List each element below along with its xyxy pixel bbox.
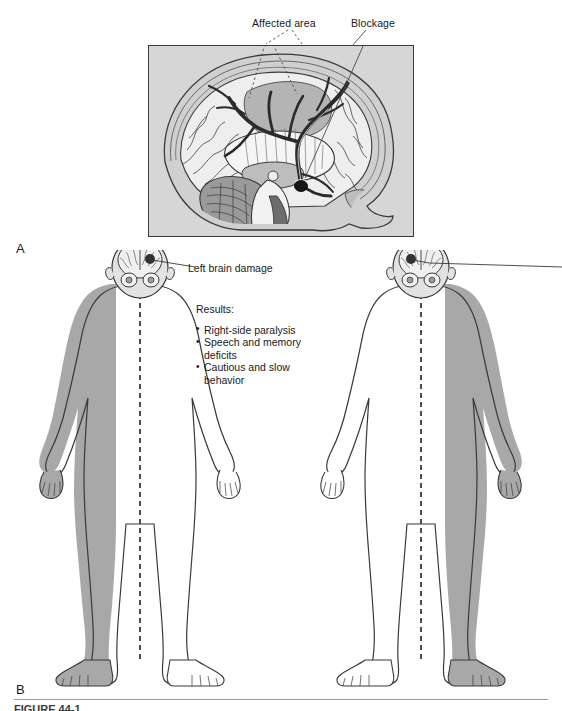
body-diagram-right-brain-damage <box>281 250 562 690</box>
callout-label-blockage: Blockage <box>351 17 395 29</box>
brain-illustration-panel <box>148 45 414 237</box>
caption-divider <box>14 699 548 700</box>
lesion-marker <box>406 254 416 264</box>
lesion-marker <box>145 254 155 264</box>
figure-caption: FIGURE 44-1 <box>14 703 548 711</box>
bullet-icon: • <box>196 323 200 336</box>
figure-left-brain-damage: Left brain damage Results: •Right-side p… <box>0 250 281 690</box>
figure-right-brain-damage: Right brain damage Results: •Left-side p… <box>281 250 562 690</box>
bullet-icon: • <box>196 336 200 349</box>
panel-b-letter: B <box>16 682 25 697</box>
callout-label-affected-area: Affected area <box>252 17 316 29</box>
result-text: Cautious and slow behavior <box>204 361 290 386</box>
affected-area-shading <box>244 82 331 139</box>
sagittal-brain-diagram <box>149 46 412 235</box>
panel-a: Affected area Blockage <box>0 0 562 250</box>
panel-b: Left brain damage Results: •Right-side p… <box>0 250 562 690</box>
label-left-brain-damage: Left brain damage <box>188 262 273 274</box>
bullet-icon: • <box>196 361 200 374</box>
